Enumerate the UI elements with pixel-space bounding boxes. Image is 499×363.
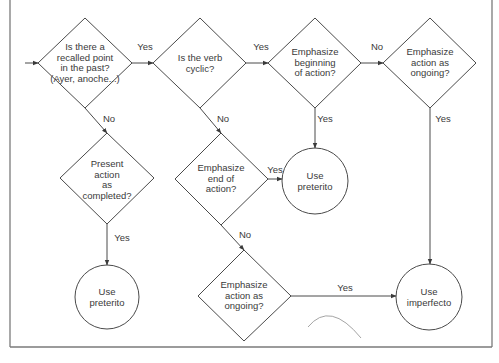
result-imperfecto-text: Use imperfecto xyxy=(407,287,451,308)
decision-emphasize-ongoing-bottom-text: Emphasize action as ongoing? xyxy=(221,280,268,312)
label-end-yes: Yes xyxy=(267,164,283,175)
label-recalled-no: No xyxy=(103,113,115,124)
decision-recalled-point-text: Is there a recalled point in the past? (… xyxy=(50,42,120,84)
label-beginning-no: No xyxy=(371,41,383,52)
result-preterito-mid-text: Use preterito xyxy=(298,171,333,192)
decision-emphasize-beginning-text: Emphasize beginning of action? xyxy=(292,47,339,79)
label-cyclic-yes: Yes xyxy=(253,41,269,52)
decision-verb-cyclic-text: Is the verb cyclic? xyxy=(178,53,222,74)
label-ongoing-top-yes: Yes xyxy=(435,113,451,124)
decision-emphasize-end-text: Emphasize end of action? xyxy=(198,163,245,195)
label-completed-yes: Yes xyxy=(114,232,130,243)
label-recalled-yes: Yes xyxy=(137,41,153,52)
decision-present-completed-text: Present action as completed? xyxy=(82,159,131,201)
result-preterito-left-text: Use preterito xyxy=(90,287,125,308)
label-end-no: No xyxy=(239,229,251,240)
label-ongoing-bottom-yes: Yes xyxy=(337,282,353,293)
label-cyclic-no: No xyxy=(217,113,229,124)
label-beginning-yes: Yes xyxy=(317,113,333,124)
decision-emphasize-ongoing-top-text: Emphasize action as ongoing? xyxy=(407,47,454,79)
flowchart: Is there a recalled point in the past? (… xyxy=(0,0,499,363)
stray-arc xyxy=(308,316,361,338)
